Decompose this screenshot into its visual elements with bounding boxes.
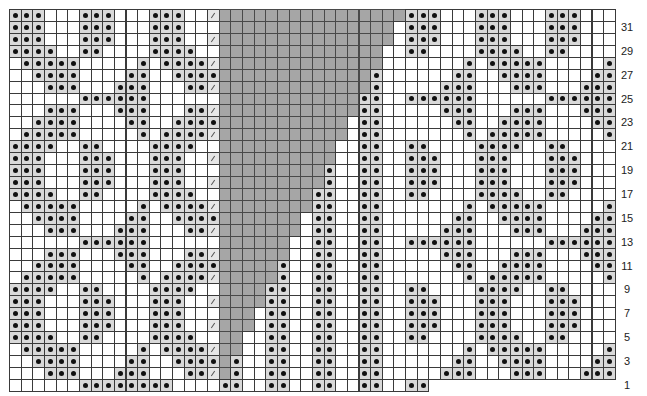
row-label: 21 <box>614 140 640 152</box>
row-label: 17 <box>614 188 640 200</box>
row-label: 31 <box>614 21 640 33</box>
row-label: 5 <box>614 331 640 343</box>
row-label: 1 <box>614 379 640 391</box>
row-label: 19 <box>614 164 640 176</box>
row-label: 9 <box>614 283 640 295</box>
row-label: 27 <box>614 69 640 81</box>
row-label: 11 <box>614 260 640 272</box>
row-label: 29 <box>614 45 640 57</box>
row-label: 13 <box>614 236 640 248</box>
row-label: 23 <box>614 116 640 128</box>
knitting-chart: 312927252321191715131197531 <box>0 0 647 396</box>
row-label: 7 <box>614 307 640 319</box>
dot-stitch-icon <box>417 379 430 392</box>
row-label: 25 <box>614 93 640 105</box>
row-label: 3 <box>614 355 640 367</box>
row-label: 15 <box>614 212 640 224</box>
